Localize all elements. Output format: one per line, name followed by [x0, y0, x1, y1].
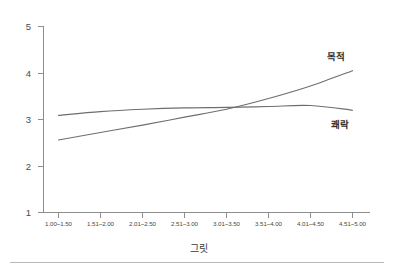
chart-figure: 5 4 3 2 1 1.00~1.50 1.51~2.00 2.01~2.50 … [0, 0, 394, 272]
x-axis-title: 그릿 [190, 243, 208, 254]
x-tick-label-4: 3.01~3.50 [213, 220, 240, 227]
y-tick-label-3: 3 [26, 114, 31, 125]
y-tick-label-2: 2 [26, 161, 31, 172]
x-tick-label-0: 1.00~1.50 [45, 220, 72, 227]
line-chart: 5 4 3 2 1 1.00~1.50 1.51~2.00 2.01~2.50 … [0, 0, 394, 272]
x-tick-label-5: 3.51~4.00 [255, 220, 282, 227]
x-tick-label-3: 2.51~3.00 [171, 220, 198, 227]
series-label-purpose: 목적 [327, 51, 345, 62]
y-tick-label-1: 1 [26, 207, 31, 218]
series-label-pleasure: 쾌락 [331, 119, 349, 130]
y-tick-label-5: 5 [26, 21, 31, 32]
x-tick-marks [59, 213, 353, 218]
bottom-divider [10, 262, 384, 263]
x-tick-label-7: 4.51~5.00 [339, 220, 366, 227]
x-tick-label-2: 2.01~2.50 [129, 220, 156, 227]
x-tick-label-1: 1.51~2.00 [87, 220, 114, 227]
y-tick-label-4: 4 [26, 68, 31, 79]
y-tick-marks [38, 27, 44, 213]
x-tick-label-6: 4.01~4.50 [297, 220, 324, 227]
